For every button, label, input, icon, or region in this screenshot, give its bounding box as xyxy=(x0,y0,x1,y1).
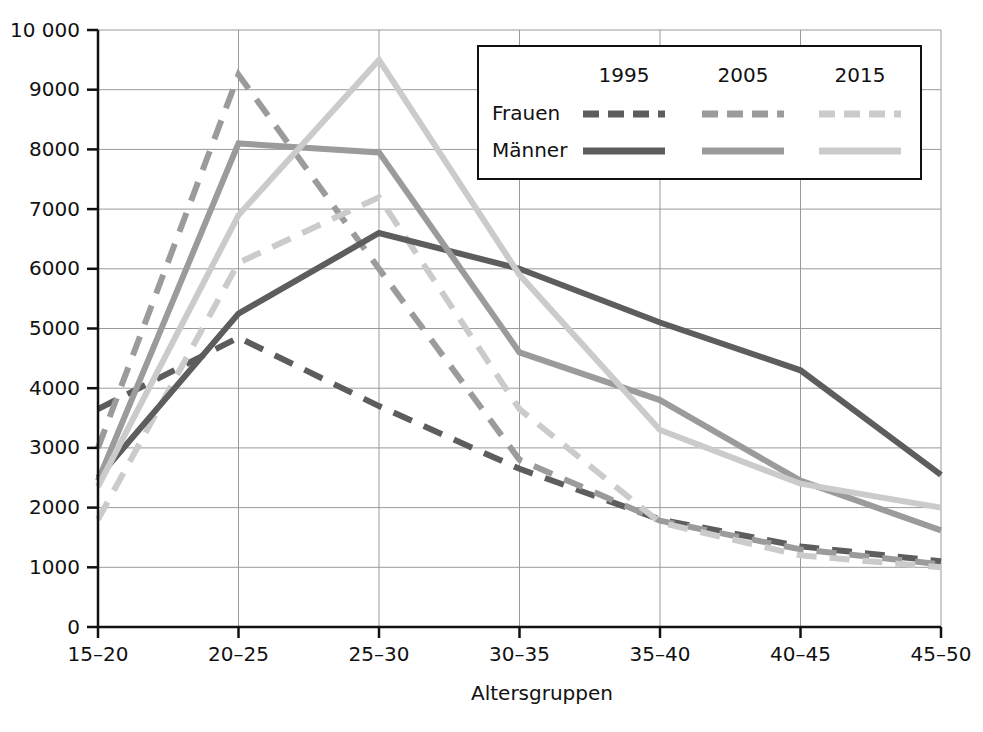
y-tick-label: 9000 xyxy=(29,77,80,101)
x-tick-label: 30–35 xyxy=(489,642,550,666)
chart-legend: 199520052015FrauenMänner xyxy=(478,46,921,179)
legend-year-2015: 2015 xyxy=(835,63,886,87)
x-tick-label: 40–45 xyxy=(770,642,831,666)
x-tick-label: 45–50 xyxy=(911,642,972,666)
x-axis-tick-labels: 15–2020–2525–3030–3535–4040–4545–50 xyxy=(68,642,972,666)
y-tick-label: 6000 xyxy=(29,256,80,280)
y-axis-tick-labels: 010002000300040005000600070008000900010 … xyxy=(10,18,80,639)
legend-row-label-maenner: Männer xyxy=(492,138,568,162)
y-tick-label: 0 xyxy=(67,615,80,639)
y-tick-label: 5000 xyxy=(29,316,80,340)
x-tick-label: 15–20 xyxy=(68,642,129,666)
legend-row-label-frauen: Frauen xyxy=(492,101,560,125)
y-tick-label: 10 000 xyxy=(10,18,80,42)
y-tick-label: 3000 xyxy=(29,435,80,459)
chart-container: 010002000300040005000600070008000900010 … xyxy=(0,0,983,732)
y-tick-label: 4000 xyxy=(29,376,80,400)
y-tick-label: 2000 xyxy=(29,495,80,519)
x-tick-label: 35–40 xyxy=(630,642,691,666)
legend-year-1995: 1995 xyxy=(599,63,650,87)
y-tick-label: 8000 xyxy=(29,137,80,161)
x-tick-label: 20–25 xyxy=(208,642,269,666)
y-tick-label: 1000 xyxy=(29,555,80,579)
line-chart: 010002000300040005000600070008000900010 … xyxy=(0,0,983,732)
x-tick-label: 25–30 xyxy=(349,642,410,666)
x-axis-title: Altersgruppen xyxy=(471,681,613,705)
y-tick-label: 7000 xyxy=(29,197,80,221)
legend-year-2005: 2005 xyxy=(718,63,769,87)
